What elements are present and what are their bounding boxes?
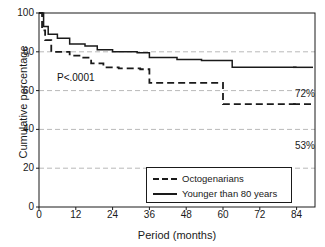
chart-legend: Octogenarians Younger than 80 years [146,167,292,203]
x-tick-label: 0 [24,210,54,220]
x-axis-tick-labels: 012243648607284 [0,210,325,224]
x-tick-label: 60 [208,210,238,220]
x-tick-label: 24 [98,210,128,220]
x-axis-title: Period (months) [39,229,315,241]
end-label-octogenarians: 53% [295,140,315,151]
legend-label-octogenarians: Octogenarians [179,173,244,184]
survival-curve-figure: Cumulative percentage 020406080100 01224… [0,0,325,247]
p-value-annotation: P<.0001 [57,72,95,83]
x-tick-label: 72 [245,210,275,220]
legend-label-younger: Younger than 80 years [179,188,277,199]
dashed-line-swatch-icon [151,174,179,184]
x-tick-label: 36 [134,210,164,220]
x-tick-label: 48 [171,210,201,220]
x-tick-label: 12 [61,210,91,220]
legend-item-younger: Younger than 80 years [151,186,287,201]
x-tick-label: 84 [282,210,312,220]
series-line [39,13,297,67]
solid-line-swatch-icon [151,189,179,199]
end-label-younger: 72% [295,88,315,99]
legend-item-octogenarians: Octogenarians [151,171,287,186]
